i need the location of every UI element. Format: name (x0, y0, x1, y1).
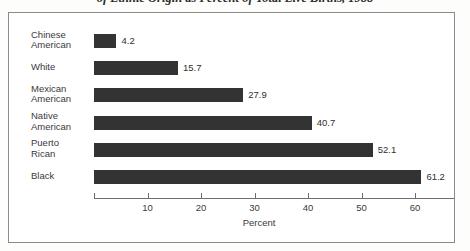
category-label: Black (31, 171, 93, 182)
x-tick (255, 193, 256, 199)
bar-value-label: 4.2 (121, 34, 134, 48)
bar (94, 116, 312, 130)
category-label: PuertoRican (31, 138, 93, 159)
bar-value-label: 40.7 (317, 116, 336, 130)
category-label: NativeAmerican (31, 111, 93, 132)
bar-value-label: 15.7 (183, 61, 202, 75)
x-tick-label: 30 (240, 202, 270, 213)
category-label: ChineseAmerican (31, 30, 93, 51)
x-tick-label: 20 (186, 202, 216, 213)
category-label: MexicanAmerican (31, 84, 93, 105)
bar-value-label: 27.9 (248, 88, 267, 102)
bar (94, 88, 243, 102)
x-tick (201, 193, 202, 199)
chart-page: of Ethnic Origin as Percent of Total Liv… (0, 0, 470, 251)
bar (94, 61, 178, 75)
chart-frame: ChineseAmericanWhiteMexicanAmericanNativ… (8, 12, 455, 243)
x-tick (415, 193, 416, 199)
category-label-line: White (31, 62, 93, 73)
category-label-line: American (31, 122, 93, 133)
x-tick-label: 50 (347, 202, 377, 213)
x-tick (148, 193, 149, 199)
bar (94, 143, 373, 157)
bar-chart: ChineseAmericanWhiteMexicanAmericanNativ… (9, 13, 456, 244)
chart-title-strip: of Ethnic Origin as Percent of Total Liv… (0, 0, 470, 11)
category-label: White (31, 62, 93, 73)
x-tick (308, 193, 309, 199)
bar (94, 34, 116, 48)
x-axis-label: Percent (94, 217, 424, 228)
x-tick-label: 60 (400, 202, 430, 213)
category-label-line: Rican (31, 149, 93, 160)
chart-title: of Ethnic Origin as Percent of Total Liv… (0, 0, 470, 6)
bar-value-label: 61.2 (426, 170, 445, 184)
x-tick-label: 40 (293, 202, 323, 213)
bar-value-label: 52.1 (378, 143, 397, 157)
category-label-line: American (31, 40, 93, 51)
category-label-line: American (31, 94, 93, 105)
category-label-line: Black (31, 171, 93, 182)
x-tick (362, 193, 363, 199)
x-tick-label: 10 (133, 202, 163, 213)
bar (94, 170, 421, 184)
